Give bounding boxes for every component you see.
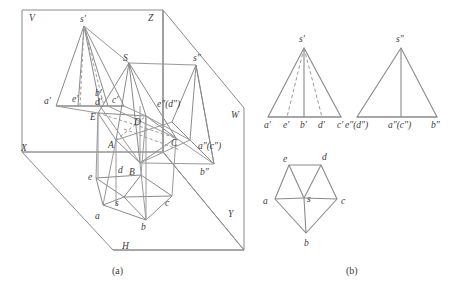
label-b-side-ed: e″(d″) bbox=[345, 120, 368, 131]
label-b-top-c: c bbox=[341, 196, 346, 206]
label-w-ac-dprime: a″(c″) bbox=[198, 141, 221, 152]
v-plane-outline bbox=[22, 10, 163, 152]
plane-axis-lines bbox=[22, 10, 163, 152]
label-b-front-c-prime: c′ bbox=[337, 120, 344, 130]
label-V: V bbox=[29, 13, 36, 23]
label-w-s-dprime: s″ bbox=[193, 53, 202, 63]
label-v-a-prime: a′ bbox=[44, 96, 52, 106]
label-v-s-prime: s′ bbox=[80, 14, 87, 24]
label-w-ed-dprime: e″(d″) bbox=[157, 99, 180, 110]
descriptive-geometry-figure: V Z W X H Y s′ a′ e′ b′ d′ c′ s″ e″(d″) … bbox=[0, 0, 453, 283]
label-solid-D: D bbox=[133, 117, 141, 127]
vertical-guides bbox=[98, 100, 163, 220]
label-H: H bbox=[121, 241, 130, 251]
label-v-c-prime: c′ bbox=[112, 95, 119, 105]
label-h-s: s bbox=[115, 198, 119, 208]
label-h-e: e bbox=[88, 172, 92, 182]
label-h-a: a bbox=[95, 211, 100, 221]
label-solid-E: E bbox=[89, 112, 96, 122]
panel-b-group bbox=[268, 48, 437, 233]
label-v-e-prime: e′ bbox=[72, 94, 79, 104]
label-solid-C: C bbox=[171, 138, 178, 148]
panel-a-labels: V Z W X H Y s′ a′ e′ b′ d′ c′ s″ e″(d″) … bbox=[20, 13, 240, 251]
label-W: W bbox=[231, 110, 240, 120]
panel-a-group bbox=[22, 10, 244, 250]
label-b-side-ac: a″(c″) bbox=[388, 120, 411, 131]
figure-captions: (a) (b) bbox=[112, 265, 358, 277]
label-b-side-b: b″ bbox=[431, 120, 441, 130]
label-b-front-a-prime: a′ bbox=[264, 120, 272, 130]
label-Z: Z bbox=[148, 13, 154, 23]
label-v-d-prime: d′ bbox=[95, 97, 103, 107]
label-b-front-b-prime: b′ bbox=[300, 120, 308, 130]
label-h-c: c bbox=[165, 198, 170, 208]
label-b-top-b: b bbox=[304, 238, 309, 248]
panel-b-labels: s′ a′ e′ b′ d′ c′ s″ e″(d″) a″(c″) b″ e … bbox=[263, 34, 441, 248]
top-view-pentagon-shape bbox=[275, 165, 337, 233]
figure-canvas: V Z W X H Y s′ a′ e′ b′ d′ c′ s″ e″(d″) … bbox=[0, 0, 453, 283]
v-projection-pyramid bbox=[56, 26, 124, 106]
label-b-top-d: d bbox=[322, 152, 327, 162]
label-h-b: b bbox=[141, 222, 146, 232]
caption-b: (b) bbox=[346, 265, 358, 277]
side-view-triangle-shape bbox=[357, 48, 437, 117]
label-solid-S: S bbox=[123, 53, 128, 63]
label-solid-B: B bbox=[129, 167, 135, 177]
label-h-d: d bbox=[118, 165, 123, 175]
front-view-triangle-shape bbox=[268, 48, 341, 117]
label-Y: Y bbox=[228, 209, 235, 219]
label-solid-A: A bbox=[107, 140, 114, 150]
label-X: X bbox=[20, 143, 28, 153]
label-b-front-d-prime: d′ bbox=[318, 120, 326, 130]
label-b-front-e-prime: e′ bbox=[283, 120, 290, 130]
label-b-top-a: a bbox=[263, 196, 268, 206]
label-b-top-s: s bbox=[307, 194, 311, 204]
label-w-b-dprime: b″ bbox=[200, 167, 210, 177]
label-b-front-apex: s′ bbox=[299, 34, 306, 44]
label-b-side-apex: s″ bbox=[396, 34, 405, 44]
caption-a: (a) bbox=[112, 265, 123, 277]
label-b-top-e: e bbox=[283, 154, 287, 164]
